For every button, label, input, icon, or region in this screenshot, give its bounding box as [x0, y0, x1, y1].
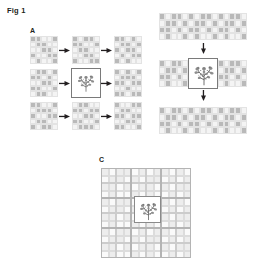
patch-grid [30, 69, 58, 97]
arrow-right-icon [101, 113, 112, 120]
grid-cell [101, 228, 131, 258]
grid-cell [52, 91, 58, 97]
grid-cell [94, 124, 100, 130]
panel-c: C [85, 152, 205, 272]
grid-cell [241, 121, 247, 128]
arrow-right-icon [59, 80, 70, 87]
grid-cell [241, 107, 247, 114]
grid-cell [136, 124, 142, 130]
panel-b: B [150, 0, 255, 150]
panel-b-strip [159, 107, 247, 134]
grid-cell [161, 168, 191, 198]
grid-cell [161, 198, 191, 228]
arrow-down-icon [200, 43, 207, 54]
grid-cell [241, 80, 247, 87]
strip-grid [159, 13, 247, 40]
grid-cell [241, 60, 247, 67]
panel-a-patch [114, 102, 142, 130]
grid-cell [101, 198, 131, 228]
plant-icon [191, 61, 217, 88]
grid-cell [241, 27, 247, 34]
grid-cell [52, 124, 58, 130]
panel-a: A [0, 0, 150, 145]
grid-cell [241, 74, 247, 81]
patch-grid [114, 69, 142, 97]
grid-cell [136, 58, 142, 64]
grid-cell [241, 33, 247, 40]
panel-b-highlight-box [188, 58, 218, 89]
patch-grid [72, 36, 100, 64]
panel-a-highlight-box [71, 68, 101, 98]
arrow-down-icon [200, 90, 207, 101]
arrow-right-icon [101, 80, 112, 87]
strip-grid [159, 107, 247, 134]
panel-a-patch [72, 36, 100, 64]
panel-a-label: A [30, 27, 35, 34]
grid-cell [241, 114, 247, 121]
patch-grid [30, 36, 58, 64]
panel-c-highlight-box [134, 196, 161, 223]
panel-a-patch [114, 36, 142, 64]
patch-grid [114, 36, 142, 64]
grid-cell [241, 13, 247, 20]
grid-cell [52, 58, 58, 64]
grid-cell [101, 168, 131, 198]
patch-grid [114, 102, 142, 130]
plant-icon [75, 71, 97, 94]
panel-a-patch [114, 69, 142, 97]
arrow-right-icon [59, 113, 70, 120]
grid-cell [241, 20, 247, 27]
arrow-right-icon [59, 47, 70, 54]
grid-cell [241, 67, 247, 74]
panel-a-patch [30, 69, 58, 97]
panel-c-label: C [99, 156, 104, 163]
panel-a-patch [72, 102, 100, 130]
grid-cell [94, 58, 100, 64]
panel-a-patch [30, 102, 58, 130]
panel-a-patch [30, 36, 58, 64]
grid-cell [131, 228, 161, 258]
grid-cell [161, 228, 191, 258]
grid-cell [131, 168, 161, 198]
patch-grid [30, 102, 58, 130]
figure-root: Fig 1 A B C [0, 0, 255, 272]
panel-b-strip [159, 13, 247, 40]
grid-cell [136, 91, 142, 97]
patch-grid [72, 102, 100, 130]
panel-c-multiscale-grid [101, 168, 191, 258]
grid-cell [241, 127, 247, 134]
arrow-right-icon [101, 47, 112, 54]
plant-icon [137, 199, 160, 222]
